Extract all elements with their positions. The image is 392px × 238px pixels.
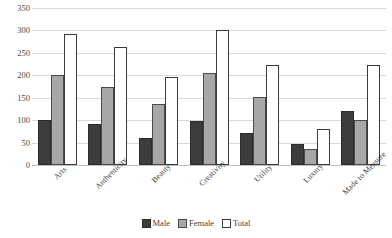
bar-group xyxy=(83,8,134,165)
legend-swatch-male-icon xyxy=(142,219,151,228)
y-tick-label: 300 xyxy=(4,26,30,35)
x-tick: Arts xyxy=(32,166,83,226)
bar-female[interactable] xyxy=(304,149,317,165)
legend-label: Female xyxy=(189,219,214,228)
clipped-label-mark xyxy=(256,0,258,4)
bar-male[interactable] xyxy=(88,124,101,165)
bar-female[interactable] xyxy=(203,73,216,165)
bar-female[interactable] xyxy=(101,87,114,165)
x-tick: Utility xyxy=(234,166,285,226)
bar-male[interactable] xyxy=(240,133,253,165)
y-tick-label: 50 xyxy=(4,138,30,147)
bar-total[interactable] xyxy=(114,47,127,165)
x-tick: Made to Measure xyxy=(335,166,386,226)
bar-male[interactable] xyxy=(139,138,152,165)
bar-male[interactable] xyxy=(38,120,51,165)
cropped-text-row xyxy=(0,0,392,7)
bar-group xyxy=(335,8,386,165)
bars-layer xyxy=(32,8,386,165)
y-tick-label: 100 xyxy=(4,116,30,125)
y-tick-label: 200 xyxy=(4,71,30,80)
bar-group xyxy=(133,8,184,165)
x-tick: Authenticity xyxy=(83,166,134,226)
bar-total[interactable] xyxy=(64,34,77,165)
clipped-label-mark xyxy=(202,0,204,4)
bar-chart: 050100150200250300350 ArtsAuthenticityBe… xyxy=(0,0,392,238)
bar-male[interactable] xyxy=(291,144,304,165)
legend-swatch-total-icon xyxy=(222,219,231,228)
bar-female[interactable] xyxy=(354,120,367,165)
bar-group xyxy=(285,8,336,165)
clipped-label-mark xyxy=(147,0,149,4)
y-tick-label: 250 xyxy=(4,49,30,58)
x-tick: Creativity xyxy=(184,166,235,226)
x-tick-label: Arts xyxy=(52,165,68,181)
y-tick-label: 0 xyxy=(4,161,30,170)
bar-total[interactable] xyxy=(165,77,178,165)
x-tick-label: Utility xyxy=(252,162,274,184)
y-tick-label: 150 xyxy=(4,93,30,102)
bar-male[interactable] xyxy=(341,111,354,165)
y-tick-label: 350 xyxy=(4,4,30,13)
legend-label: Male xyxy=(153,219,170,228)
x-tick: Beauty xyxy=(133,166,184,226)
legend-item-total[interactable]: Total xyxy=(222,219,250,228)
bar-total[interactable] xyxy=(216,30,229,165)
legend-swatch-female-icon xyxy=(178,219,187,228)
bar-male[interactable] xyxy=(190,121,203,165)
bar-female[interactable] xyxy=(253,97,266,165)
bar-total[interactable] xyxy=(367,65,380,165)
chart-legend: MaleFemaleTotal xyxy=(0,219,392,228)
legend-item-male[interactable]: Male xyxy=(142,219,170,228)
bar-female[interactable] xyxy=(152,104,165,165)
bar-group xyxy=(234,8,285,165)
bar-female[interactable] xyxy=(51,75,64,165)
y-axis: 050100150200250300350 xyxy=(0,8,30,165)
bar-total[interactable] xyxy=(266,65,279,165)
bar-group xyxy=(32,8,83,165)
legend-item-female[interactable]: Female xyxy=(178,219,214,228)
x-tick-label: Beauty xyxy=(150,162,173,185)
x-tick: Luxury xyxy=(285,166,336,226)
bar-total[interactable] xyxy=(317,129,330,165)
bar-group xyxy=(184,8,235,165)
x-axis: ArtsAuthenticityBeautyCreativityUtilityL… xyxy=(32,166,386,226)
legend-label: Total xyxy=(233,219,250,228)
